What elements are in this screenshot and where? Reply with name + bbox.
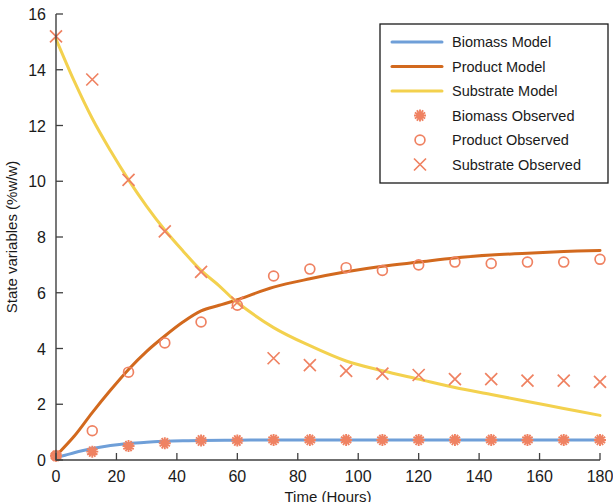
x-tick-label: 120 — [405, 468, 432, 485]
x-tick-label: 60 — [228, 468, 246, 485]
legend-item-label: Biomass Model — [452, 34, 551, 50]
y-tick-label: 0 — [37, 452, 46, 469]
series-biomass-observed — [50, 434, 606, 462]
x-tick-label: 140 — [466, 468, 493, 485]
legend-item-label: Substrate Model — [452, 83, 558, 99]
y-tick-label: 16 — [28, 6, 46, 23]
x-tick-label: 80 — [289, 468, 307, 485]
y-tick-label: 2 — [37, 396, 46, 413]
x-tick-label: 0 — [52, 468, 61, 485]
y-tick-label: 10 — [28, 173, 46, 190]
x-tick-label: 100 — [345, 468, 372, 485]
y-axis-title: State variables (%w/w) — [3, 161, 20, 314]
y-tick-label: 8 — [37, 229, 46, 246]
x-tick-label: 20 — [108, 468, 126, 485]
chart-legend: Biomass ModelProduct ModelSubstrate Mode… — [380, 24, 608, 183]
x-tick-label: 180 — [587, 468, 613, 485]
y-tick-label: 14 — [28, 62, 46, 79]
series-biomass-model — [56, 440, 600, 457]
y-tick-label: 4 — [37, 341, 46, 358]
legend-item-label: Product Observed — [452, 132, 569, 148]
legend-item-label: Product Model — [452, 59, 546, 75]
plot-canvas: 0204060801001201401601800246810121416 Ti… — [0, 0, 613, 502]
x-tick-label: 40 — [168, 468, 186, 485]
chart-figure: 0204060801001201401601800246810121416 Ti… — [0, 0, 613, 502]
x-axis-title: Time (Hours) — [285, 488, 372, 502]
series-product-observed — [51, 254, 605, 460]
legend-item-label: Biomass Observed — [452, 108, 575, 124]
legend-item-label: Substrate Observed — [452, 157, 581, 173]
y-tick-label: 6 — [37, 285, 46, 302]
x-tick-label: 160 — [526, 468, 553, 485]
y-tick-label: 12 — [28, 118, 46, 135]
